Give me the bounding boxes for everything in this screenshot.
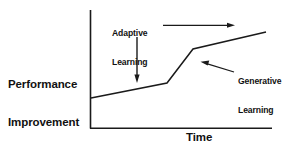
y-axis-label: Performance Improvement (8, 52, 86, 151)
figure-container: Performance Improvement Time Adaptive Le… (0, 0, 293, 151)
generative-learning-line1: Generative (238, 77, 281, 87)
generative-learning-line2: Learning (238, 106, 281, 116)
adaptive-right-arrow (163, 23, 235, 28)
adaptive-learning-line1: Adaptive (112, 29, 148, 39)
y-axis-label-line1: Performance (8, 78, 86, 91)
x-axis-label: Time (186, 131, 212, 144)
generative-left-arrow (201, 61, 235, 72)
adaptive-learning-line2: Learning (112, 58, 148, 68)
generative-learning-label: Generative Learning (238, 58, 281, 135)
y-axis-label-line2: Improvement (8, 116, 86, 129)
adaptive-learning-label: Adaptive Learning (112, 10, 148, 87)
